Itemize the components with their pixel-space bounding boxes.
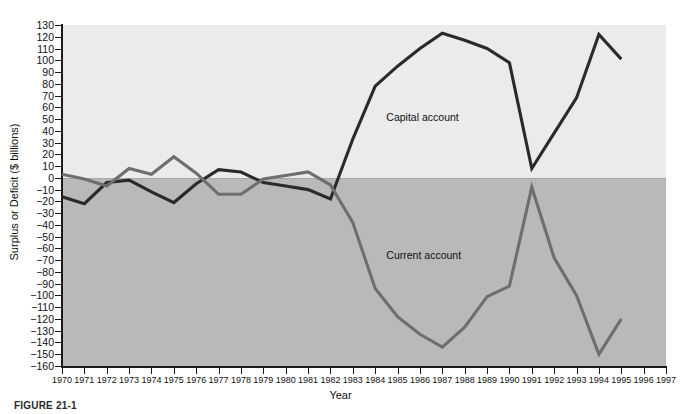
y-axis-tick bbox=[55, 166, 62, 167]
y-axis-tick bbox=[55, 190, 62, 191]
y-axis-tick bbox=[55, 131, 62, 132]
y-axis-tick bbox=[55, 213, 62, 214]
figure-caption: FIGURE 21-1 bbox=[14, 400, 77, 411]
y-axis-tick bbox=[55, 284, 62, 285]
y-axis-tick bbox=[55, 60, 62, 61]
series-line-capital-account bbox=[62, 33, 621, 204]
y-axis-tick bbox=[55, 49, 62, 50]
y-axis-tick bbox=[55, 119, 62, 120]
y-axis-tick bbox=[55, 84, 62, 85]
y-axis-tick bbox=[55, 72, 62, 73]
chart-lines bbox=[0, 0, 681, 414]
y-axis-tick bbox=[55, 260, 62, 261]
series-label-capital-account: Capital account bbox=[386, 111, 458, 123]
y-axis-tick bbox=[55, 248, 62, 249]
y-axis-tick bbox=[55, 307, 62, 308]
y-axis-tick bbox=[55, 225, 62, 226]
y-axis-tick bbox=[55, 154, 62, 155]
y-axis-tick bbox=[55, 178, 62, 179]
y-axis-tick bbox=[55, 237, 62, 238]
y-axis-tick bbox=[55, 354, 62, 355]
y-axis-tick bbox=[55, 201, 62, 202]
y-axis-tick bbox=[55, 366, 62, 367]
y-axis-tick bbox=[55, 295, 62, 296]
y-axis-tick bbox=[55, 272, 62, 273]
y-axis-tick bbox=[55, 107, 62, 108]
y-axis-tick bbox=[55, 342, 62, 343]
figure-container: 1301201101009080706050403020100−10−20−30… bbox=[0, 0, 681, 414]
y-axis-tick bbox=[55, 143, 62, 144]
y-axis-tick bbox=[55, 319, 62, 320]
series-label-current-account: Current account bbox=[386, 249, 461, 261]
y-axis-tick bbox=[55, 37, 62, 38]
y-axis-tick bbox=[55, 331, 62, 332]
y-axis-tick bbox=[55, 96, 62, 97]
series-line-current-account bbox=[62, 157, 621, 355]
y-axis-tick bbox=[55, 25, 62, 26]
